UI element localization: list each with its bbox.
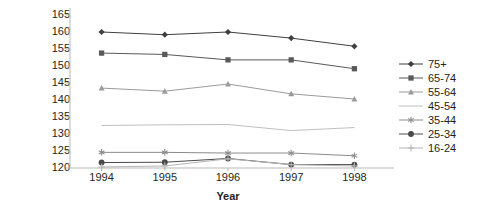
legend-item-55-64[interactable]: 55-64 — [398, 85, 493, 99]
legend-swatch — [398, 99, 424, 113]
legend-label: 55-64 — [424, 87, 456, 98]
legend-label: 16-24 — [424, 143, 456, 154]
systolic-bp-line-chart: Systolic BP 1201251301351401451501551601… — [0, 0, 495, 213]
legend-swatch — [398, 127, 424, 141]
x-tick-label: 1994 — [79, 172, 125, 183]
data-point-circle-marker — [408, 131, 414, 137]
legend-item-45-54[interactable]: 45-54 — [398, 99, 493, 113]
legend-key-35-44 — [398, 113, 424, 127]
legend: 75+65-7455-6445-5435-4425-3416-24 — [398, 57, 493, 155]
legend-key-25-34 — [398, 127, 424, 141]
legend-item-16-24[interactable]: 16-24 — [398, 141, 493, 155]
legend-key-75plus — [398, 57, 424, 71]
legend-label: 75+ — [424, 59, 447, 70]
legend-label: 45-54 — [424, 101, 456, 112]
legend-item-25-34[interactable]: 25-34 — [398, 127, 493, 141]
x-axis-title: Year — [70, 190, 386, 202]
legend-key-45-54 — [398, 99, 424, 113]
data-point-plus-marker — [408, 145, 415, 152]
legend-item-75plus[interactable]: 75+ — [398, 57, 493, 71]
legend-label: 35-44 — [424, 115, 456, 126]
legend-key-16-24 — [398, 141, 424, 155]
x-tick-label: 1997 — [268, 172, 314, 183]
legend-key-55-64 — [398, 85, 424, 99]
legend-swatch — [398, 85, 424, 99]
legend-item-65-74[interactable]: 65-74 — [398, 71, 493, 85]
legend-swatch — [398, 71, 424, 85]
legend-label: 65-74 — [424, 73, 456, 84]
legend-label: 25-34 — [424, 129, 456, 140]
x-tick-label: 1995 — [142, 172, 188, 183]
data-point-diamond-marker — [408, 61, 414, 67]
x-tick-label: 1996 — [205, 172, 251, 183]
x-tick-label: 1998 — [331, 172, 377, 183]
legend-swatch — [398, 57, 424, 71]
legend-swatch — [398, 141, 424, 155]
legend-item-35-44[interactable]: 35-44 — [398, 113, 493, 127]
legend-swatch — [398, 113, 424, 127]
legend-key-65-74 — [398, 71, 424, 85]
data-point-square-marker — [408, 75, 413, 80]
